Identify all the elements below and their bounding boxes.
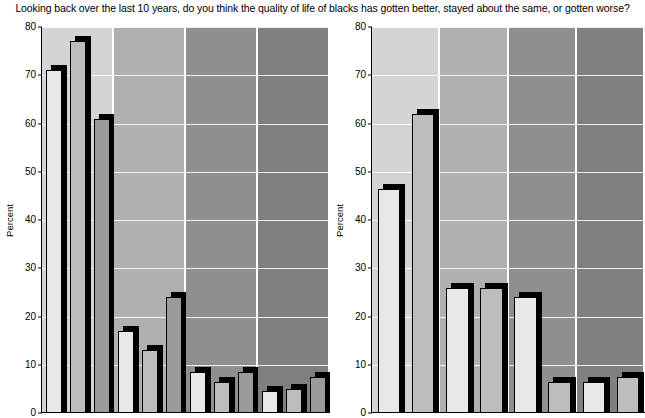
gridline bbox=[577, 124, 643, 125]
x-axis-line bbox=[372, 412, 645, 413]
gridline bbox=[186, 124, 256, 125]
gridline bbox=[186, 172, 256, 173]
gridline bbox=[114, 268, 184, 269]
gridline bbox=[114, 124, 184, 125]
gridline bbox=[440, 124, 506, 125]
bar bbox=[583, 382, 606, 413]
group-panel bbox=[258, 27, 330, 413]
chart-title: Looking back over the last 10 years, do … bbox=[0, 2, 645, 15]
bar bbox=[142, 350, 158, 413]
gridline bbox=[440, 220, 506, 221]
plot-area-left bbox=[42, 27, 330, 413]
group-panel bbox=[372, 27, 440, 413]
gridline bbox=[440, 172, 506, 173]
bar bbox=[412, 114, 435, 413]
bar bbox=[94, 119, 110, 413]
bar bbox=[480, 288, 503, 413]
y-tick-label: 70 bbox=[355, 70, 366, 80]
gridline bbox=[577, 268, 643, 269]
y-tick-label: 20 bbox=[25, 312, 36, 322]
bar bbox=[46, 70, 62, 413]
gridline bbox=[372, 75, 438, 76]
gridline bbox=[258, 75, 328, 76]
y-tick-label: 0 bbox=[30, 408, 36, 418]
plot-area-right bbox=[372, 27, 645, 413]
gridline bbox=[114, 220, 184, 221]
gridline bbox=[186, 365, 256, 366]
y-axis-right-title: Percent bbox=[334, 198, 345, 244]
gridline bbox=[186, 220, 256, 221]
y-tick-label: 0 bbox=[360, 408, 366, 418]
gridline bbox=[577, 220, 643, 221]
gridline bbox=[509, 75, 575, 76]
gridline bbox=[440, 27, 506, 28]
gridline bbox=[186, 317, 256, 318]
bar bbox=[310, 377, 326, 413]
y-tick-label: 40 bbox=[25, 215, 36, 225]
gridline bbox=[186, 75, 256, 76]
y-axis-left-title: Percent bbox=[4, 198, 15, 244]
x-axis-line bbox=[42, 412, 330, 413]
gridline bbox=[258, 268, 328, 269]
bar bbox=[214, 382, 230, 413]
gridline bbox=[186, 268, 256, 269]
group-panel bbox=[577, 27, 645, 413]
y-tick-label: 70 bbox=[25, 70, 36, 80]
gridline bbox=[509, 172, 575, 173]
gridline bbox=[258, 365, 328, 366]
group-panel bbox=[509, 27, 577, 413]
bar bbox=[190, 372, 206, 413]
bar bbox=[617, 377, 640, 413]
y-tick-label: 10 bbox=[355, 360, 366, 370]
gridline bbox=[577, 27, 643, 28]
bar bbox=[70, 41, 86, 413]
gridline bbox=[509, 220, 575, 221]
gridline bbox=[186, 27, 256, 28]
gridline bbox=[509, 268, 575, 269]
chart-right: Percent01020304050607080 bbox=[330, 27, 645, 413]
bar bbox=[262, 391, 278, 413]
group-panel bbox=[114, 27, 186, 413]
bar bbox=[446, 288, 469, 413]
gridline bbox=[258, 124, 328, 125]
gridline bbox=[114, 172, 184, 173]
gridline bbox=[258, 220, 328, 221]
gridline bbox=[577, 172, 643, 173]
gridline bbox=[509, 27, 575, 28]
y-tick-label: 60 bbox=[355, 119, 366, 129]
y-tick-label: 30 bbox=[355, 263, 366, 273]
gridline bbox=[577, 75, 643, 76]
y-tick-label: 80 bbox=[355, 22, 366, 32]
chart-left: Percent01020304050607080 bbox=[0, 27, 330, 413]
bar bbox=[238, 372, 254, 413]
y-tick-label: 20 bbox=[355, 312, 366, 322]
bar bbox=[118, 331, 134, 413]
y-tick-label: 30 bbox=[25, 263, 36, 273]
y-tick-label: 50 bbox=[25, 167, 36, 177]
gridline bbox=[258, 27, 328, 28]
y-axis-left: Percent01020304050607080 bbox=[0, 27, 42, 413]
bar bbox=[514, 297, 537, 413]
gridline bbox=[440, 268, 506, 269]
gridline bbox=[258, 172, 328, 173]
gridline bbox=[509, 124, 575, 125]
gridline bbox=[114, 27, 184, 28]
y-tick-label: 80 bbox=[25, 22, 36, 32]
group-panel bbox=[42, 27, 114, 413]
y-tick-label: 40 bbox=[355, 215, 366, 225]
gridline bbox=[440, 75, 506, 76]
bar bbox=[548, 382, 571, 413]
bar bbox=[378, 189, 401, 413]
bar bbox=[286, 389, 302, 413]
gridline bbox=[372, 27, 438, 28]
group-panel bbox=[440, 27, 508, 413]
gridline bbox=[577, 365, 643, 366]
y-axis-right: Percent01020304050607080 bbox=[330, 27, 372, 413]
gridline bbox=[577, 317, 643, 318]
y-tick-label: 10 bbox=[25, 360, 36, 370]
bar bbox=[166, 297, 182, 413]
gridline bbox=[114, 75, 184, 76]
y-tick-label: 50 bbox=[355, 167, 366, 177]
group-panel bbox=[186, 27, 258, 413]
y-tick-label: 60 bbox=[25, 119, 36, 129]
